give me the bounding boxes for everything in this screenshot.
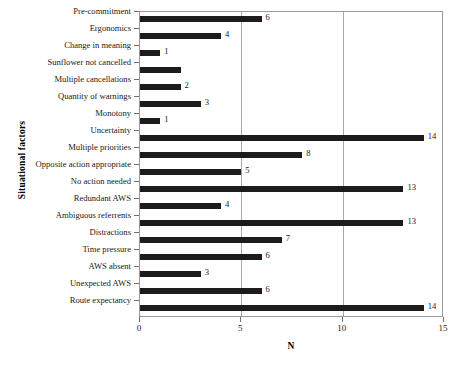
bar	[140, 169, 241, 175]
y-axis-tick	[134, 232, 139, 233]
bar-value-label: 7	[286, 232, 290, 244]
bar-row: Route expectancy14	[0, 300, 471, 317]
bar	[140, 305, 424, 311]
bar-value-label: 13	[407, 181, 416, 193]
bar	[140, 254, 262, 260]
x-axis-tick-label: 0	[124, 323, 154, 333]
y-axis-tick	[134, 249, 139, 250]
bar	[140, 50, 160, 56]
y-axis-tick	[134, 266, 139, 267]
category-label: Ambiguous referrents	[0, 210, 131, 220]
category-label: Sunflower not cancelled	[0, 57, 131, 67]
bar-value-label: 14	[428, 130, 437, 142]
bar-value-label: 3	[205, 266, 209, 278]
bar-value-label: 8	[306, 147, 310, 159]
bar-value-label: 1	[164, 113, 168, 125]
bar	[140, 16, 262, 22]
x-axis-title: N	[139, 341, 443, 351]
y-axis-tick	[134, 300, 139, 301]
bar-chart: Situational factors Pre-commitment6Ergon…	[0, 0, 471, 365]
y-axis-tick	[134, 283, 139, 284]
bar	[140, 237, 282, 243]
bar	[140, 135, 424, 141]
y-axis-tick	[134, 11, 139, 12]
bar-value-label: 3	[205, 96, 209, 108]
category-label: Opposite action appropriate	[0, 159, 131, 169]
category-label: Pre-commitment	[0, 6, 131, 16]
y-axis-tick	[134, 62, 139, 63]
category-label: Quantity of warnings	[0, 91, 131, 101]
bar-value-label: 14	[428, 300, 437, 312]
bar-value-label: 6	[266, 249, 270, 261]
bar-value-label: 6	[266, 11, 270, 23]
bar-value-label: 2	[185, 79, 189, 91]
x-axis-tick	[443, 317, 444, 322]
category-label: Redundant AWS	[0, 193, 131, 203]
x-axis-tick	[342, 317, 343, 322]
y-axis-tick	[134, 45, 139, 46]
y-axis-tick	[134, 215, 139, 216]
bar-value-label: 4	[225, 198, 229, 210]
y-axis-tick	[134, 164, 139, 165]
x-axis-tick	[240, 317, 241, 322]
bar	[140, 186, 403, 192]
bar	[140, 33, 221, 39]
bar-value-label: 4	[225, 28, 229, 40]
category-label: Unexpected AWS	[0, 278, 131, 288]
bar	[140, 288, 262, 294]
x-axis-tick-label: 15	[428, 323, 458, 333]
y-axis-tick	[134, 113, 139, 114]
y-axis-tick	[134, 28, 139, 29]
category-label: Route expectancy	[0, 295, 131, 305]
bar	[140, 203, 221, 209]
bar	[140, 84, 181, 90]
category-label: Change in meaning	[0, 40, 131, 50]
y-axis-tick	[134, 147, 139, 148]
category-label: Distractions	[0, 227, 131, 237]
x-axis-tick-label: 10	[327, 323, 357, 333]
bar-value-label: 1	[164, 45, 168, 57]
bar-rows: Pre-commitment6Ergonomics4Change in mean…	[0, 11, 471, 317]
y-axis-tick	[134, 181, 139, 182]
category-label: Ergonomics	[0, 23, 131, 33]
category-label: No action needed	[0, 176, 131, 186]
bar	[140, 118, 160, 124]
bar	[140, 101, 201, 107]
category-label: AWS absent	[0, 261, 131, 271]
y-axis-tick	[134, 79, 139, 80]
bar	[140, 271, 201, 277]
x-axis-ticks: 051015	[0, 317, 471, 323]
bar	[140, 220, 403, 226]
bar-value-label: 6	[266, 283, 270, 295]
bar	[140, 152, 302, 158]
x-axis-tick	[139, 317, 140, 322]
y-axis-tick	[134, 198, 139, 199]
category-label: Monotony	[0, 108, 131, 118]
x-axis-tick-label: 5	[225, 323, 255, 333]
bar-value-label: 5	[245, 164, 249, 176]
category-label: Multiple priorities	[0, 142, 131, 152]
category-label: Time pressure	[0, 244, 131, 254]
bar	[140, 67, 181, 73]
category-label: Multiple cancellations	[0, 74, 131, 84]
category-label: Uncertainty	[0, 125, 131, 135]
y-axis-tick	[134, 130, 139, 131]
bar-value-label: 13	[407, 215, 416, 227]
y-axis-tick	[134, 96, 139, 97]
